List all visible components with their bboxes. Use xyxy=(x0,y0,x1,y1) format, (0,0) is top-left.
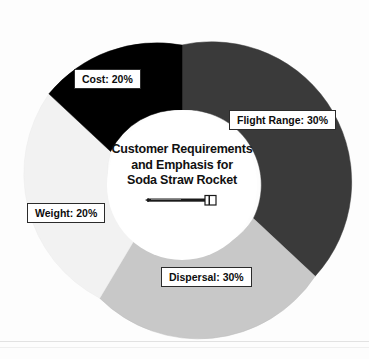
slice-label-flight-range[interactable]: Flight Range: 30% xyxy=(229,110,336,130)
donut-chart-screenshot: Customer Requirements and Emphasis for S… xyxy=(0,0,369,359)
donut-chart-svg xyxy=(0,0,369,359)
slice-label-dispersal[interactable]: Dispersal: 30% xyxy=(161,267,252,287)
donut-hole xyxy=(107,110,257,260)
page-divider-line-secondary xyxy=(0,347,369,348)
chart-area: Customer Requirements and Emphasis for S… xyxy=(0,0,369,359)
page-divider-line xyxy=(0,341,369,342)
slice-label-weight[interactable]: Weight: 20% xyxy=(27,203,105,223)
slice-label-cost[interactable]: Cost: 20% xyxy=(74,69,141,89)
